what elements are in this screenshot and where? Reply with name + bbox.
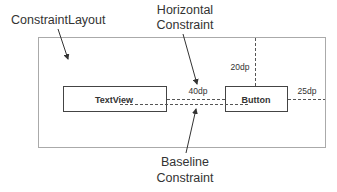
button-label: Button xyxy=(242,95,271,105)
constraint-layout-diagram: TextView Button 20dp 40dp 25dp Constrain… xyxy=(0,0,337,192)
right-margin-label: 25dp xyxy=(298,86,317,96)
baseline-constraint-label-line1: Baseline xyxy=(161,155,209,169)
horizontal-constraint-label-line2: Constraint xyxy=(157,18,214,32)
horizontal-gap-label: 40dp xyxy=(189,86,208,96)
baseline-constraint-label-line2: Constraint xyxy=(157,171,214,185)
horizontal-constraint-arrow xyxy=(183,34,197,84)
constraint-layout-label: ConstraintLayout xyxy=(11,13,106,27)
baseline-constraint-arrow xyxy=(186,109,196,153)
constraint-layout-arrow xyxy=(58,29,68,59)
textview-label: TextView xyxy=(95,95,134,105)
horizontal-constraint-label-line1: Horizontal xyxy=(157,3,213,17)
top-margin-label: 20dp xyxy=(231,62,250,72)
